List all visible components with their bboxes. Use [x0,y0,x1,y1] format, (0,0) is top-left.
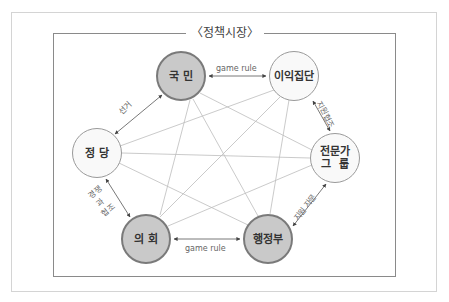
node-citizens-label: 국 민 [169,70,193,83]
node-assembly: 의 회 [121,214,171,264]
node-interest-groups: 이익집단 [269,51,319,101]
node-executive-label: 행정부 [253,233,283,246]
node-citizens: 국 민 [156,51,206,101]
mesh-lines [119,90,312,226]
label-citizens-interest: game rule [216,64,257,73]
node-party: 정 당 [72,128,122,178]
node-expert-group-label: 전문가 그 룹 [320,145,350,171]
node-executive: 행정부 [243,214,293,264]
node-assembly-label: 의 회 [134,233,158,246]
node-expert-group: 전문가 그 룹 [310,133,360,183]
node-party-label: 정 당 [85,147,109,160]
label-assembly-executive: game rule [185,244,226,253]
connection-lines [0,0,449,302]
node-interest-groups-label: 이익집단 [274,70,314,83]
